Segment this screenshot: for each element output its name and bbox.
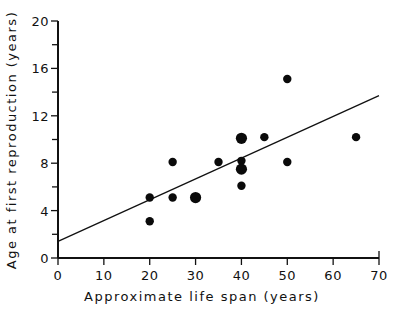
x-tick-label: 0: [54, 268, 63, 283]
data-point: [168, 193, 176, 201]
x-tick-label: 40: [233, 268, 251, 283]
data-point: [352, 133, 360, 141]
data-point: [283, 75, 291, 83]
data-point: [283, 158, 291, 166]
y-axis-label: Age at first reproduction (years): [4, 11, 19, 269]
x-axis-label: Approximate life span (years): [84, 289, 320, 304]
data-point: [236, 164, 247, 175]
y-tick-label: 20: [31, 14, 49, 29]
axes: 010203040506070048121620: [31, 14, 387, 283]
scatter-chart: 010203040506070048121620 Approximate lif…: [0, 0, 400, 315]
x-tick-label: 70: [370, 268, 388, 283]
data-point: [214, 158, 222, 166]
data-point: [237, 182, 245, 190]
y-tick-label: 4: [40, 204, 49, 219]
x-tick-label: 10: [95, 268, 113, 283]
data-point: [236, 133, 247, 144]
data-point: [190, 192, 201, 203]
y-tick-label: 8: [40, 156, 49, 171]
regression-line: [58, 96, 379, 242]
y-tick-label: 16: [31, 61, 49, 76]
data-point: [260, 133, 268, 141]
x-tick-label: 50: [279, 268, 297, 283]
data-point: [168, 158, 176, 166]
data-point: [146, 193, 154, 201]
x-tick-label: 30: [187, 268, 205, 283]
data-point: [146, 217, 154, 225]
y-tick-label: 0: [40, 251, 49, 266]
x-tick-label: 20: [141, 268, 159, 283]
y-tick-label: 12: [31, 109, 49, 124]
x-tick-label: 60: [324, 268, 342, 283]
data-points: [146, 75, 361, 226]
regression-line-path: [58, 96, 379, 242]
